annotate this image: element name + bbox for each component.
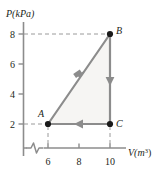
y-tick-label-6: 6 [10,59,15,70]
state-point-b-marker [107,31,113,37]
pv-diagram-figure: 8 6 4 2 6 8 10 P(kPa) V(m3) A [0,0,164,176]
state-point-c-marker [107,121,113,127]
y-tick-label-2: 2 [10,119,15,130]
x-axis-title-base: V(m [128,147,145,159]
x-tick-label-8: 8 [77,156,82,167]
y-axis-title-text: P(kPa) [5,8,35,20]
state-point-label-b: B [116,25,122,36]
y-tick-label-4: 4 [10,89,15,100]
state-point-a-marker [45,121,51,127]
x-axis-title-close: ) [148,147,151,159]
y-axis-title: P(kPa) [5,8,35,20]
y-tick-label-8: 8 [10,29,15,40]
pv-diagram-canvas: 8 6 4 2 6 8 10 P(kPa) V(m3) A [0,0,164,176]
x-axis-title: V(m3) [128,147,151,160]
state-point-label-a: A [37,108,45,119]
x-tick-label-10: 10 [105,156,115,167]
x-tick-label-6: 6 [46,156,51,167]
state-point-label-c: C [116,118,123,129]
